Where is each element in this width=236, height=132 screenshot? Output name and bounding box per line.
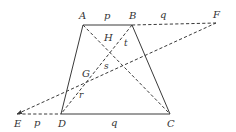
trapezoid-diagram: ABFEDCpqpqHtGsr: [0, 0, 236, 132]
label-G: G: [82, 68, 90, 79]
segment-ef: [17, 23, 216, 114]
label-q-top: q: [160, 9, 166, 20]
label-s: s: [104, 61, 109, 71]
arrow-E-icon: [17, 110, 22, 114]
labels-group: ABFEDCpqpqHtGsr: [13, 9, 221, 129]
label-B: B: [128, 10, 136, 21]
label-A: A: [78, 10, 86, 21]
label-q-bottom: q: [111, 117, 117, 128]
segment-bf: [132, 23, 216, 25]
arrowheads-group: [17, 110, 22, 114]
segments-group: [17, 23, 216, 114]
label-r: r: [79, 90, 84, 100]
label-D: D: [57, 118, 66, 129]
label-t: t: [124, 38, 128, 48]
label-p-bottom: p: [34, 117, 41, 128]
label-H: H: [103, 32, 113, 43]
segment-ad: [61, 25, 83, 114]
label-p-top: p: [104, 10, 111, 21]
label-E: E: [13, 118, 22, 129]
segment-bc: [132, 25, 170, 114]
label-F: F: [212, 9, 221, 20]
label-C: C: [167, 118, 175, 129]
